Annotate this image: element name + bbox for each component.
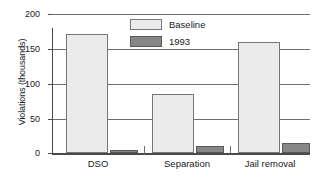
x-axis-spine — [52, 153, 310, 155]
bar-dso-baseline — [66, 34, 108, 153]
bar-jail-removal-baseline — [238, 42, 280, 153]
x-category-label-dso: DSO — [58, 158, 138, 169]
plot-area: 200 150 100 50 0 DSO Separation Jail rem… — [52, 14, 310, 154]
y-tick-label-150: 150 — [14, 45, 40, 54]
chart-legend: Baseline 1993 — [130, 17, 228, 51]
x-category-separator-2 — [230, 146, 231, 154]
legend-item-1993: 1993 — [130, 34, 228, 49]
bar-separation-baseline — [152, 94, 194, 153]
y-tick-label-200: 200 — [14, 10, 40, 19]
legend-swatch-1993-icon — [130, 36, 162, 47]
bar-jail-removal-1993 — [282, 143, 310, 153]
y-tick-mark-0 — [48, 153, 52, 154]
legend-label-1993: 1993 — [169, 36, 190, 47]
x-category-label-jail-removal: Jail removal — [230, 158, 310, 169]
legend-label-baseline: Baseline — [169, 19, 205, 30]
y-tick-label-50: 50 — [14, 115, 40, 124]
legend-swatch-baseline-icon — [130, 19, 162, 30]
bar-chart-figure: Violations (thousands) 200 150 100 50 0 — [0, 0, 316, 177]
bar-separation-1993 — [196, 146, 224, 153]
x-category-separator-1 — [144, 146, 145, 154]
legend-item-baseline: Baseline — [130, 17, 228, 32]
x-category-label-separation: Separation — [144, 158, 230, 169]
y-tick-label-0: 0 — [14, 149, 40, 158]
y-tick-label-100: 100 — [14, 80, 40, 89]
bar-dso-1993 — [110, 150, 138, 153]
